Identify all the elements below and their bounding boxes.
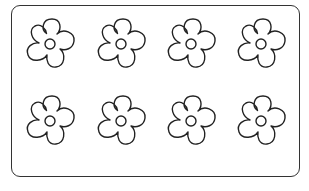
flower-grid xyxy=(0,0,309,191)
flower-5 xyxy=(27,96,74,144)
flower-2 xyxy=(98,19,145,67)
flower-4 xyxy=(238,19,285,67)
flower-3 xyxy=(168,19,215,67)
flower-1 xyxy=(27,19,74,67)
flower-6 xyxy=(98,96,145,144)
flower-7 xyxy=(168,96,215,144)
flower-8 xyxy=(238,96,285,144)
